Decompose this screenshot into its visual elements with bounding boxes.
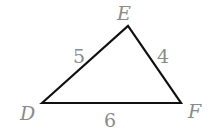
triangle-diagram: E D F 5 4 6 <box>0 0 218 130</box>
side-label-df: 6 <box>104 109 116 130</box>
side-label-ef: 4 <box>157 45 169 67</box>
vertex-label-e: E <box>116 2 131 24</box>
vertex-label-d: D <box>19 102 35 124</box>
vertex-label-f: F <box>187 100 202 122</box>
side-label-de: 5 <box>73 45 85 67</box>
